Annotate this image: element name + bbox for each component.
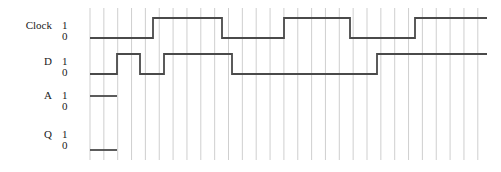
waveform-traces [90, 18, 487, 150]
waveform-svg [0, 0, 501, 172]
waveform-plot-area [0, 0, 501, 172]
timing-diagram-figure: Clock D A Q 1 0 1 0 1 0 1 0 [0, 0, 501, 172]
waveform-trace-d [90, 54, 487, 74]
waveform-trace-clock [90, 18, 487, 38]
